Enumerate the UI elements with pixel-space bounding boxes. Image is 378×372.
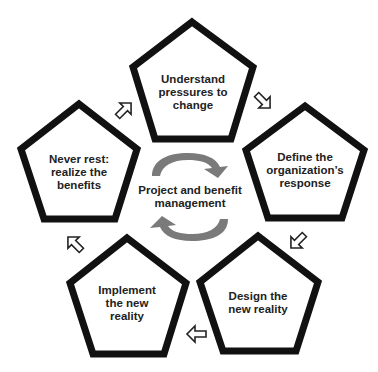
- step-5-label: Never rest: realize the benefits: [49, 153, 109, 192]
- arrow-up-left-icon: [62, 231, 87, 256]
- arrow-left-icon: [187, 326, 206, 342]
- center-label: Project and benefit management: [138, 184, 242, 210]
- step-2-label: Define the organization’s response: [266, 151, 344, 190]
- step-4-label: Implement the new reality: [98, 284, 156, 323]
- arrow-down-left-icon: [285, 229, 310, 254]
- step-3-label: Design the new reality: [228, 290, 287, 316]
- arrow-down-right-icon: [251, 89, 276, 114]
- step-1-label: Understand pressures to change: [158, 73, 227, 112]
- arrow-up-right-icon: [112, 97, 137, 122]
